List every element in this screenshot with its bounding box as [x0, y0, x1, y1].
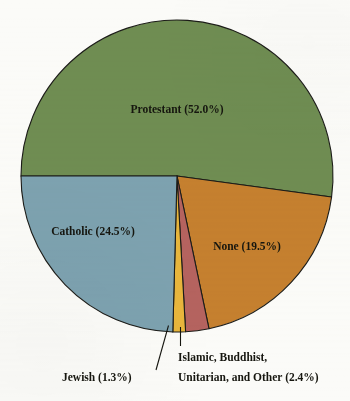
slice-label-catholic: Catholic (24.5%) [51, 225, 135, 238]
pie-chart-figure: Protestant (52.0%) None (19.5%) Catholic… [0, 0, 350, 401]
slice-label-protestant: Protestant (52.0%) [130, 103, 223, 116]
leader-line-jewish [156, 326, 169, 371]
slice-label-none: None (19.5%) [213, 240, 281, 253]
callout-label-jewish: Jewish (1.3%) [62, 371, 132, 384]
callout-labels: Islamic, Buddhist, Unitarian, and Other … [62, 351, 319, 384]
pie-chart-svg: Protestant (52.0%) None (19.5%) Catholic… [0, 0, 350, 401]
pie-slice-catholic[interactable] [21, 176, 177, 332]
callout-label-islamic-other-line2: Unitarian, and Other (2.4%) [178, 371, 319, 384]
pie-slices [21, 20, 333, 332]
callout-label-islamic-other-line1: Islamic, Buddhist, [178, 351, 267, 363]
